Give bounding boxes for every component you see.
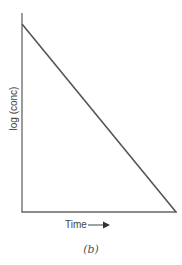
x-axis-label: Time [65,219,87,230]
figure-caption: (b) [0,243,182,256]
time-arrow-head-icon [103,222,110,229]
data-line [22,24,176,212]
y-axis-label: log (conc) [8,74,19,144]
chart-canvas [0,0,182,265]
